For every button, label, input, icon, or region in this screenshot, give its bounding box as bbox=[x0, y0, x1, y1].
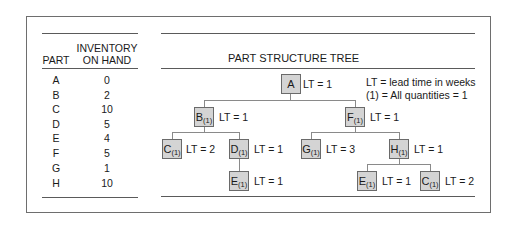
node-quantity: (1) bbox=[238, 148, 247, 157]
lead-time-d: LT = 1 bbox=[254, 139, 283, 159]
part-cell: E bbox=[42, 132, 70, 144]
lead-time-c2: LT = 2 bbox=[445, 171, 474, 191]
lead-time-e1: LT = 1 bbox=[254, 171, 283, 191]
part-cell: D bbox=[42, 118, 70, 130]
legend-lead-time: LT = lead time in weeks bbox=[366, 76, 476, 88]
part-cell: C bbox=[42, 103, 70, 115]
node-a: A bbox=[281, 74, 301, 94]
on-hand-cell: 2 bbox=[76, 89, 138, 101]
part-cell: G bbox=[42, 162, 70, 174]
connector-h-children bbox=[367, 164, 431, 165]
header-part: PART bbox=[42, 54, 70, 66]
header-inventory-line2: ON HAND bbox=[76, 54, 138, 66]
on-hand-cell: 4 bbox=[76, 132, 138, 144]
connector-a-children bbox=[204, 100, 355, 101]
node-c1: C(1) bbox=[162, 139, 182, 159]
header-inventory-line1: INVENTORY bbox=[76, 42, 138, 54]
part-cell: A bbox=[42, 74, 70, 86]
node-quantity: (1) bbox=[171, 148, 180, 157]
node-label: E bbox=[231, 175, 238, 187]
on-hand-cell: 0 bbox=[76, 74, 138, 86]
table-bottom-rule bbox=[42, 197, 138, 198]
connector-d-to-e1 bbox=[239, 159, 240, 171]
lead-time-g: LT = 3 bbox=[326, 139, 355, 159]
on-hand-cell: 5 bbox=[76, 147, 138, 159]
tree-bottom-rule bbox=[161, 196, 475, 197]
lead-time-e2: LT = 1 bbox=[382, 171, 411, 191]
connector-to-h bbox=[399, 132, 400, 139]
connector-to-c1 bbox=[172, 132, 173, 139]
connector-to-f bbox=[355, 100, 356, 107]
lead-time-c1: LT = 2 bbox=[186, 139, 215, 159]
connector-f-children bbox=[311, 132, 400, 133]
connector-b-children bbox=[172, 132, 240, 133]
node-label: E bbox=[359, 175, 366, 187]
node-quantity: (1) bbox=[398, 148, 407, 157]
on-hand-cell: 1 bbox=[76, 162, 138, 174]
node-label: F bbox=[347, 111, 354, 123]
node-e2: E(1) bbox=[357, 171, 377, 191]
node-quantity: (1) bbox=[354, 116, 363, 125]
connector-to-d bbox=[239, 132, 240, 139]
on-hand-cell: 5 bbox=[76, 118, 138, 130]
node-h: H(1) bbox=[389, 139, 409, 159]
on-hand-cell: 10 bbox=[76, 177, 138, 189]
tree-header-rule bbox=[161, 68, 475, 69]
legend-quantities: (1) = All quantities = 1 bbox=[366, 89, 468, 101]
node-g: G(1) bbox=[301, 139, 321, 159]
node-label: B bbox=[196, 111, 203, 123]
connector-to-g bbox=[311, 132, 312, 139]
node-label: G bbox=[302, 143, 311, 155]
node-quantity: (1) bbox=[366, 180, 375, 189]
node-quantity: (1) bbox=[203, 116, 212, 125]
node-c2: C(1) bbox=[420, 171, 440, 191]
connector-to-b bbox=[204, 100, 205, 107]
node-label: A bbox=[287, 78, 294, 90]
part-cell: H bbox=[42, 177, 70, 189]
lead-time-f: LT = 1 bbox=[370, 107, 399, 127]
tree-top-rule bbox=[161, 33, 475, 34]
lead-time-a: LT = 1 bbox=[303, 74, 332, 94]
table-top-rule bbox=[42, 33, 138, 34]
connector-to-c2 bbox=[430, 164, 431, 171]
lead-time-h: LT = 1 bbox=[414, 139, 443, 159]
tree-title: PART STRUCTURE TREE bbox=[228, 52, 359, 64]
on-hand-cell: 10 bbox=[76, 103, 138, 115]
node-e1: E(1) bbox=[229, 171, 249, 191]
part-cell: F bbox=[42, 147, 70, 159]
node-d: D(1) bbox=[229, 139, 249, 159]
node-b: B(1) bbox=[194, 107, 214, 127]
lead-time-b: LT = 1 bbox=[219, 107, 248, 127]
node-quantity: (1) bbox=[311, 148, 320, 157]
part-cell: B bbox=[42, 89, 70, 101]
table-header-rule bbox=[42, 68, 138, 69]
node-f: F(1) bbox=[345, 107, 365, 127]
node-quantity: (1) bbox=[429, 180, 438, 189]
node-quantity: (1) bbox=[238, 180, 247, 189]
connector-to-e2 bbox=[367, 164, 368, 171]
